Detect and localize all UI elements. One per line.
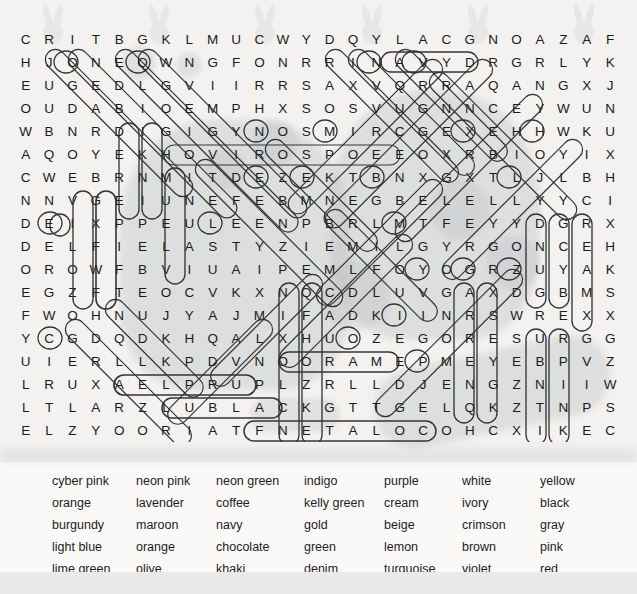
grid-cell[interactable]: B bbox=[84, 166, 107, 189]
grid-cell[interactable]: E bbox=[411, 396, 434, 419]
grid-cell[interactable]: Y bbox=[435, 235, 458, 258]
grid-cell[interactable]: X bbox=[482, 281, 505, 304]
grid-cell[interactable]: Q bbox=[482, 74, 505, 97]
grid-cell[interactable]: E bbox=[154, 212, 177, 235]
word-list-item[interactable]: green bbox=[304, 536, 384, 558]
grid-cell[interactable]: N bbox=[131, 166, 154, 189]
grid-cell[interactable]: L bbox=[154, 235, 177, 258]
grid-cell[interactable]: X bbox=[84, 373, 107, 396]
grid-cell[interactable]: U bbox=[318, 327, 341, 350]
grid-cell[interactable]: N bbox=[458, 373, 481, 396]
word-list-item[interactable]: black bbox=[540, 492, 600, 514]
grid-cell[interactable]: F bbox=[14, 304, 37, 327]
grid-cell[interactable]: Z bbox=[131, 396, 154, 419]
grid-cell[interactable]: N bbox=[271, 419, 294, 442]
grid-cell[interactable]: E bbox=[458, 189, 481, 212]
grid-cell[interactable]: A bbox=[388, 51, 411, 74]
word-list-item[interactable]: kelly green bbox=[304, 492, 384, 514]
grid-cell[interactable]: H bbox=[598, 166, 622, 189]
grid-cell[interactable]: S bbox=[295, 74, 318, 97]
grid-cell[interactable]: D bbox=[61, 97, 84, 120]
grid-cell[interactable]: D bbox=[131, 327, 154, 350]
word-list-item[interactable]: neon green bbox=[216, 470, 304, 492]
word-list-item[interactable]: neon pink bbox=[136, 470, 216, 492]
grid-cell[interactable]: V bbox=[224, 350, 247, 373]
grid-cell[interactable]: G bbox=[61, 327, 84, 350]
grid-cell[interactable]: L bbox=[271, 373, 294, 396]
grid-cell[interactable]: D bbox=[14, 212, 37, 235]
grid-cell[interactable]: C bbox=[14, 166, 37, 189]
grid-cell[interactable]: F bbox=[598, 28, 622, 51]
grid-cell[interactable]: W bbox=[154, 51, 177, 74]
grid-cell[interactable]: N bbox=[435, 97, 458, 120]
grid-cell[interactable]: G bbox=[528, 281, 551, 304]
grid-cell[interactable]: Y bbox=[84, 143, 107, 166]
grid-cell[interactable]: L bbox=[37, 419, 60, 442]
grid-cell[interactable]: F bbox=[435, 212, 458, 235]
grid-cell[interactable]: E bbox=[37, 212, 60, 235]
grid-cell[interactable]: F bbox=[365, 258, 388, 281]
grid-cell[interactable]: A bbox=[201, 419, 224, 442]
grid-cell[interactable]: R bbox=[108, 396, 131, 419]
grid-cell[interactable]: E bbox=[37, 235, 60, 258]
word-list-item[interactable]: yellow bbox=[540, 470, 600, 492]
grid-cell[interactable]: U bbox=[224, 28, 247, 51]
grid-cell[interactable]: G bbox=[61, 74, 84, 97]
grid-cell[interactable]: I bbox=[178, 419, 201, 442]
grid-cell[interactable]: O bbox=[154, 281, 177, 304]
grid-cell[interactable]: L bbox=[248, 327, 271, 350]
grid-cell[interactable]: X bbox=[84, 212, 107, 235]
grid-cell[interactable]: F bbox=[224, 189, 247, 212]
word-list-item[interactable]: pink bbox=[540, 536, 600, 558]
grid-cell[interactable]: E bbox=[458, 212, 481, 235]
grid-cell[interactable]: E bbox=[388, 143, 411, 166]
grid-cell[interactable]: C bbox=[271, 396, 294, 419]
grid-cell[interactable]: L bbox=[201, 212, 224, 235]
grid-cell[interactable]: O bbox=[14, 258, 37, 281]
word-list-item[interactable]: orange bbox=[52, 492, 136, 514]
grid-cell[interactable]: R bbox=[341, 212, 364, 235]
grid-cell[interactable]: T bbox=[411, 212, 434, 235]
grid-cell[interactable]: R bbox=[154, 419, 177, 442]
grid-cell[interactable]: C bbox=[318, 281, 341, 304]
grid-cell[interactable]: Y bbox=[528, 97, 551, 120]
grid-cell[interactable]: G bbox=[388, 396, 411, 419]
grid-cell[interactable]: C bbox=[248, 28, 271, 51]
grid-cell[interactable]: M bbox=[365, 350, 388, 373]
grid-cell[interactable]: L bbox=[14, 396, 37, 419]
grid-cell[interactable]: L bbox=[365, 212, 388, 235]
grid-cell[interactable]: K bbox=[295, 396, 318, 419]
word-list-item[interactable]: brown bbox=[462, 536, 540, 558]
grid-cell[interactable]: R bbox=[318, 350, 341, 373]
grid-cell[interactable]: E bbox=[435, 373, 458, 396]
grid-cell[interactable]: S bbox=[201, 235, 224, 258]
grid-cell[interactable]: E bbox=[248, 166, 271, 189]
grid-cell[interactable]: G bbox=[411, 327, 434, 350]
grid-cell[interactable]: A bbox=[318, 74, 341, 97]
word-list-item[interactable]: indigo bbox=[304, 470, 384, 492]
grid-cell[interactable]: A bbox=[505, 74, 528, 97]
grid-cell[interactable]: E bbox=[411, 189, 434, 212]
grid-cell[interactable]: W bbox=[552, 120, 575, 143]
grid-cell[interactable]: M bbox=[341, 235, 364, 258]
grid-cell[interactable]: R bbox=[528, 51, 551, 74]
grid-cell[interactable]: G bbox=[365, 189, 388, 212]
grid-cell[interactable]: O bbox=[248, 51, 271, 74]
grid-cell[interactable]: K bbox=[575, 120, 598, 143]
grid-cell[interactable]: H bbox=[295, 327, 318, 350]
grid-cell[interactable]: U bbox=[528, 327, 551, 350]
grid-cell[interactable]: T bbox=[482, 166, 505, 189]
grid-cell[interactable]: G bbox=[505, 51, 528, 74]
grid-cell[interactable]: N bbox=[435, 304, 458, 327]
grid-cell[interactable]: M bbox=[318, 120, 341, 143]
grid-cell[interactable]: S bbox=[482, 304, 505, 327]
grid-cell[interactable]: O bbox=[505, 28, 528, 51]
word-list-item[interactable]: cream bbox=[384, 492, 462, 514]
grid-cell[interactable]: K bbox=[154, 327, 177, 350]
grid-cell[interactable]: Q bbox=[341, 28, 364, 51]
grid-cell[interactable]: O bbox=[14, 97, 37, 120]
grid-cell[interactable]: S bbox=[598, 281, 622, 304]
grid-cell[interactable]: O bbox=[131, 419, 154, 442]
grid-cell[interactable]: E bbox=[575, 235, 598, 258]
grid-cell[interactable]: C bbox=[37, 327, 60, 350]
